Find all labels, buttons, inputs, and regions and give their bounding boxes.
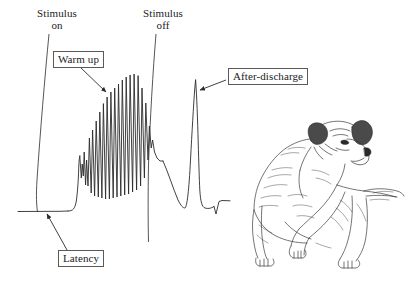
latency-label: Latency (58, 250, 104, 267)
latency-arrow (47, 214, 67, 250)
stimulus-off-leader (148, 34, 156, 242)
post-stimulus-decline (138, 76, 163, 186)
kymograph-trace (18, 74, 230, 214)
after-discharge-spike (163, 80, 196, 208)
after-discharge-decay (196, 80, 214, 209)
stimulus-off-label-line2: off (157, 19, 170, 31)
stimulus-off-label: Stimulus off (134, 7, 192, 31)
tetanus-oscillations (103, 74, 138, 199)
warm-up-oscillations (80, 104, 104, 198)
stimulus-off-label-line1: Stimulus (143, 7, 183, 19)
baseline-segment (18, 211, 68, 212)
scratching-dog-drawing (253, 121, 405, 268)
stimulus-on-label-line1: Stimulus (37, 7, 77, 19)
stimulus-on-label-line2: on (51, 19, 62, 31)
after-discharge-arrow (200, 80, 226, 90)
stimulus-on-leader (36, 34, 49, 212)
stimulus-on-label: Stimulus on (26, 7, 88, 31)
warm-up-arrow (81, 68, 106, 92)
after-discharge-label: After-discharge (228, 68, 308, 85)
recording-trace-svg (0, 0, 405, 286)
warm-up-label: Warm up (53, 51, 104, 68)
scratch-reflex-figure: Stimulus on Stimulus off Warm up After-d… (0, 0, 405, 286)
latency-rise-segment (68, 156, 80, 211)
trace-tail (214, 201, 230, 215)
